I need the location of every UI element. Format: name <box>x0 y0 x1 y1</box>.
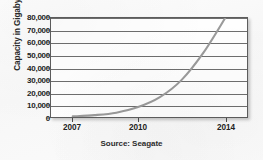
capacity-curve <box>51 18 247 117</box>
y-tick-mark <box>46 17 50 18</box>
plot-area <box>50 17 248 118</box>
y-tick-mark <box>46 92 50 93</box>
y-tick-label: 50,000 <box>8 50 50 59</box>
x-tick-mark <box>226 118 227 122</box>
y-tick-label: 70,000 <box>8 25 50 34</box>
y-tick-label: 10,000 <box>8 101 50 110</box>
y-tick-mark <box>46 54 50 55</box>
y-tick-label: 20,000 <box>8 88 50 97</box>
y-tick-mark <box>46 29 50 30</box>
y-tick-mark <box>46 118 50 119</box>
series-curve-container <box>51 18 247 117</box>
x-tick-label: 2014 <box>206 123 246 132</box>
x-axis-tick-labels: 200720102014 <box>0 118 263 138</box>
y-tick-label: 30,000 <box>8 76 50 85</box>
x-tick-mark <box>138 118 139 122</box>
x-tick-label: 2007 <box>52 123 92 132</box>
chart-figure: Capacity in Gigabytes 010,00020,00030,00… <box>0 0 263 160</box>
y-tick-mark <box>46 42 50 43</box>
y-tick-mark <box>46 105 50 106</box>
x-tick-label: 2010 <box>118 123 158 132</box>
y-tick-label: 80,000 <box>8 13 50 22</box>
y-tick-label: 40,000 <box>8 63 50 72</box>
y-tick-mark <box>46 80 50 81</box>
source-caption: Source: Seagate <box>0 139 263 148</box>
y-tick-label: 60,000 <box>8 38 50 47</box>
y-tick-mark <box>46 67 50 68</box>
x-tick-mark <box>72 118 73 122</box>
